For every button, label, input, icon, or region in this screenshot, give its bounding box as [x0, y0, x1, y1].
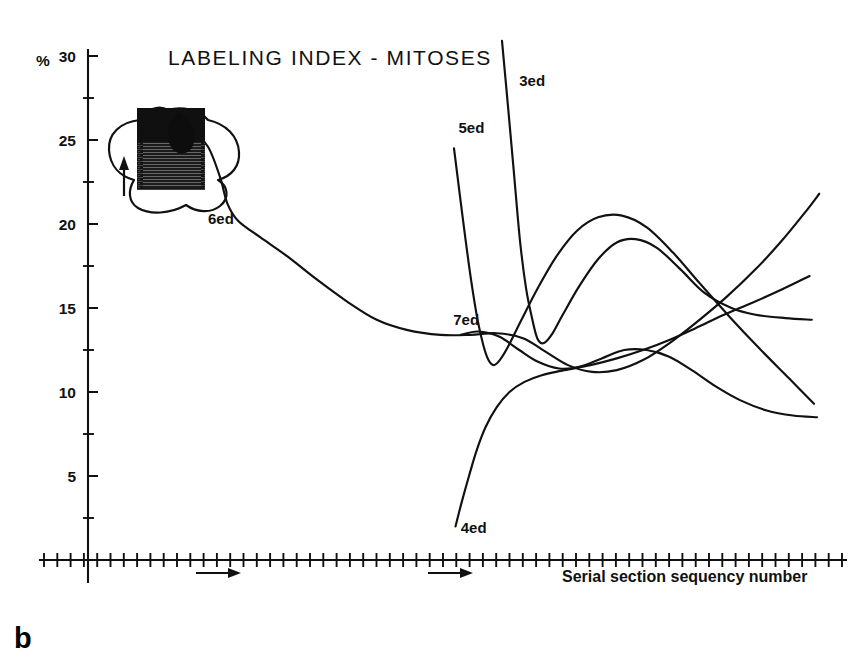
x-axis-ticks [44, 553, 842, 567]
curve-label-7ed: 7ed [453, 311, 479, 328]
curve-label-3ed: 3ed [519, 72, 545, 89]
chart-canvas: 51015202530 % LABELING INDEX - MITOSES S… [0, 0, 849, 670]
flow-arrow-1-head [228, 568, 241, 578]
panel-label-wrap: b [14, 622, 32, 655]
flow-arrow-2-head [460, 568, 473, 578]
flow-arrow-1 [196, 568, 241, 578]
figure-panel-b: 51015202530 % LABELING INDEX - MITOSES S… [0, 0, 849, 670]
inset-specimen-striated [143, 142, 201, 188]
curve-4ed [456, 276, 810, 526]
y-tick-label: 25 [59, 132, 77, 149]
flow-arrow-2 [428, 568, 473, 578]
curve-label-6ed: 6ed [208, 210, 234, 227]
curve-label-4ed: 4ed [461, 519, 487, 536]
data-curves [177, 41, 820, 527]
panel-label: b [14, 622, 32, 654]
curve-labels: 3ed5ed6ed7ed4ed [208, 72, 545, 536]
y-axis-tick-labels: 51015202530 [59, 48, 77, 485]
curve-7ed [461, 332, 817, 418]
inset-orientation-arrow-head [119, 156, 129, 170]
x-axis-label: Serial section sequency number [562, 568, 807, 585]
y-tick-label: 5 [67, 468, 76, 485]
y-tick-label: 30 [59, 48, 76, 65]
y-tick-label: 20 [59, 216, 76, 233]
y-axis-unit-label: % [36, 52, 50, 69]
y-tick-label: 10 [59, 384, 76, 401]
y-tick-label: 15 [59, 300, 77, 317]
curve-label-5ed: 5ed [459, 119, 485, 136]
specimen-inset [109, 108, 239, 213]
chart-title: LABELING INDEX - MITOSES [168, 46, 492, 69]
y-axis-ticks [83, 56, 98, 518]
